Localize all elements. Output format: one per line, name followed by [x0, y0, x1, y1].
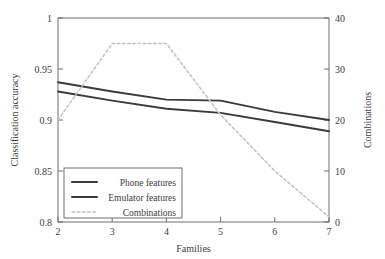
x-axis-tick-label: 2 [56, 226, 61, 237]
legend-label-emulator-features: Emulator features [108, 193, 176, 203]
x-axis-tick-label: 6 [272, 226, 277, 237]
x-axis-title: Families [176, 243, 211, 254]
y-axis-right-title: Combinations [362, 92, 373, 148]
chart-container: 10.950.90.850.8 403020100 234567 Familie… [0, 0, 385, 259]
y-axis-left-tick-label: 0.95 [35, 64, 53, 75]
legend-label-combinations: Combinations [123, 208, 177, 218]
legend-label-phone-features: Phone features [120, 178, 176, 188]
x-axis-tick-label: 4 [164, 226, 169, 237]
y-axis-left-tick-label: 1 [47, 13, 52, 24]
chart-legend: Phone featuresEmulator featuresCombinati… [64, 168, 182, 218]
y-axis-left-tick-label: 0.85 [35, 166, 53, 177]
x-axis-tick-label: 7 [327, 226, 332, 237]
y-axis-left-tick-label: 0.8 [40, 217, 53, 228]
line-chart: 10.950.90.850.8 403020100 234567 Familie… [0, 0, 385, 259]
y-axis-right-tick-label: 40 [335, 13, 345, 24]
y-axis-right-tick-label: 20 [335, 115, 345, 126]
y-axis-right-tick-label: 30 [335, 64, 345, 75]
x-axis-tick-label: 5 [218, 226, 223, 237]
x-axis-tick-label: 3 [110, 226, 115, 237]
y-axis-left-title: Classification accuracy [9, 73, 20, 166]
y-axis-left-tick-label: 0.9 [40, 115, 53, 126]
y-axis-right-tick-label: 10 [335, 166, 345, 177]
y-axis-right-tick-label: 0 [335, 217, 340, 228]
